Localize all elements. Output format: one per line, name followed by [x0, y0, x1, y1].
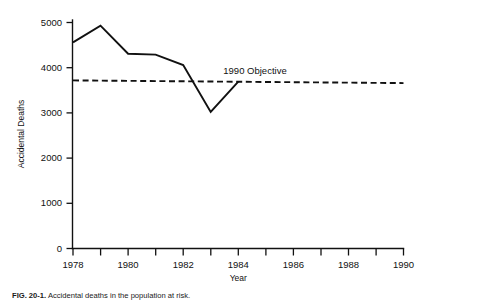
objective-annotation-label: 1990 Objective — [223, 65, 286, 76]
y-tick-label-5000: 5000 — [41, 17, 62, 28]
x-axis-ticks — [73, 249, 404, 256]
y-tick-label-4000: 4000 — [41, 62, 62, 73]
y-tick-label-0: 0 — [57, 243, 62, 254]
x-tick-label-1986: 1986 — [283, 259, 304, 270]
accidental-deaths-series-line — [73, 26, 238, 112]
figure-caption: FIG. 20-1. Accidental deaths in the popu… — [12, 291, 482, 301]
x-tick-label-1984: 1984 — [228, 259, 249, 270]
x-tick-label-1980: 1980 — [118, 259, 139, 270]
y-axis-tick-labels: 0 1000 2000 3000 4000 5000 — [41, 17, 62, 254]
x-tick-label-1978: 1978 — [62, 259, 83, 270]
figure-container: 0 1000 2000 3000 4000 5000 1978 198 — [0, 0, 485, 305]
line-chart: 0 1000 2000 3000 4000 5000 1978 198 — [0, 0, 485, 305]
y-tick-label-2000: 2000 — [41, 152, 62, 163]
figure-caption-text: Accidental deaths in the population at r… — [48, 291, 190, 300]
y-tick-label-3000: 3000 — [41, 107, 62, 118]
y-axis-title: Accidental Deaths — [16, 100, 26, 169]
x-tick-label-1990: 1990 — [393, 259, 414, 270]
x-axis-title: Year — [230, 273, 247, 283]
figure-caption-id: FIG. 20-1. — [12, 291, 46, 300]
x-tick-label-1982: 1982 — [173, 259, 194, 270]
y-tick-label-1000: 1000 — [41, 197, 62, 208]
x-tick-label-1988: 1988 — [338, 259, 359, 270]
y-axis-ticks — [67, 23, 73, 249]
x-axis-tick-labels: 1978 1980 1982 1984 1986 1988 1990 — [62, 259, 414, 270]
